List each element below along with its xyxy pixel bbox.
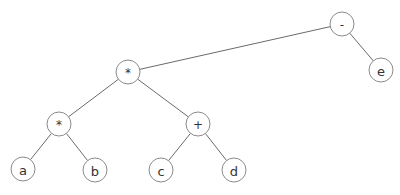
edge-mul_left-b: [66, 133, 87, 160]
node-label: c: [157, 164, 164, 179]
node-label: d: [230, 164, 238, 179]
node-label: b: [91, 164, 99, 179]
edge-minus-e: [350, 33, 373, 61]
tree-node-d: d: [222, 158, 246, 182]
edge-plus-c: [169, 133, 191, 160]
edge-mul_top-mul_left: [69, 79, 119, 117]
tree-node-e: e: [369, 58, 393, 82]
tree-edges: [30, 27, 373, 161]
node-label: *: [56, 118, 62, 132]
edge-minus-mul_top: [140, 27, 331, 70]
tree-nodes: -*e*+abcd: [11, 12, 393, 182]
node-label: e: [377, 64, 385, 79]
tree-node-mul_top: *: [116, 60, 140, 84]
edge-plus-d: [205, 133, 226, 160]
node-label: +: [193, 118, 203, 132]
expression-tree: -*e*+abcd: [0, 0, 400, 195]
node-label: a: [19, 163, 27, 178]
tree-node-b: b: [83, 158, 107, 182]
node-label: *: [125, 66, 131, 80]
tree-node-a: a: [11, 157, 35, 181]
edge-mul_top-plus: [138, 79, 189, 117]
edge-mul_left-a: [30, 133, 51, 159]
tree-node-minus: -: [330, 12, 354, 36]
tree-node-c: c: [149, 158, 173, 182]
tree-node-plus: +: [186, 112, 210, 136]
tree-node-mul_left: *: [47, 112, 71, 136]
node-label: -: [340, 18, 344, 32]
